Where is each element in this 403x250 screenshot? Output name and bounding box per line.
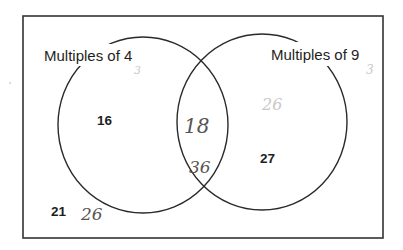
stray-mark xyxy=(9,82,11,84)
set-a-label: Multiples of 4 xyxy=(44,47,132,64)
set-b-faint-value: 26 xyxy=(261,95,282,114)
set-b-only-value: 27 xyxy=(260,151,275,166)
intersection-value-2: 36 xyxy=(189,157,211,177)
outside-handwritten-value: 26 xyxy=(80,204,103,224)
set-a-handwritten-mark: 3 xyxy=(134,64,141,77)
outside-value: 21 xyxy=(51,204,67,219)
set-a-only-value: 16 xyxy=(97,113,113,128)
set-b-handwritten-mark: 3 xyxy=(366,63,374,77)
venn-diagram: Multiples of 4 Multiples of 9 3 3 16 27 … xyxy=(0,0,403,250)
set-b-label: Multiples of 9 xyxy=(271,46,359,63)
intersection-value-1: 18 xyxy=(184,114,209,138)
